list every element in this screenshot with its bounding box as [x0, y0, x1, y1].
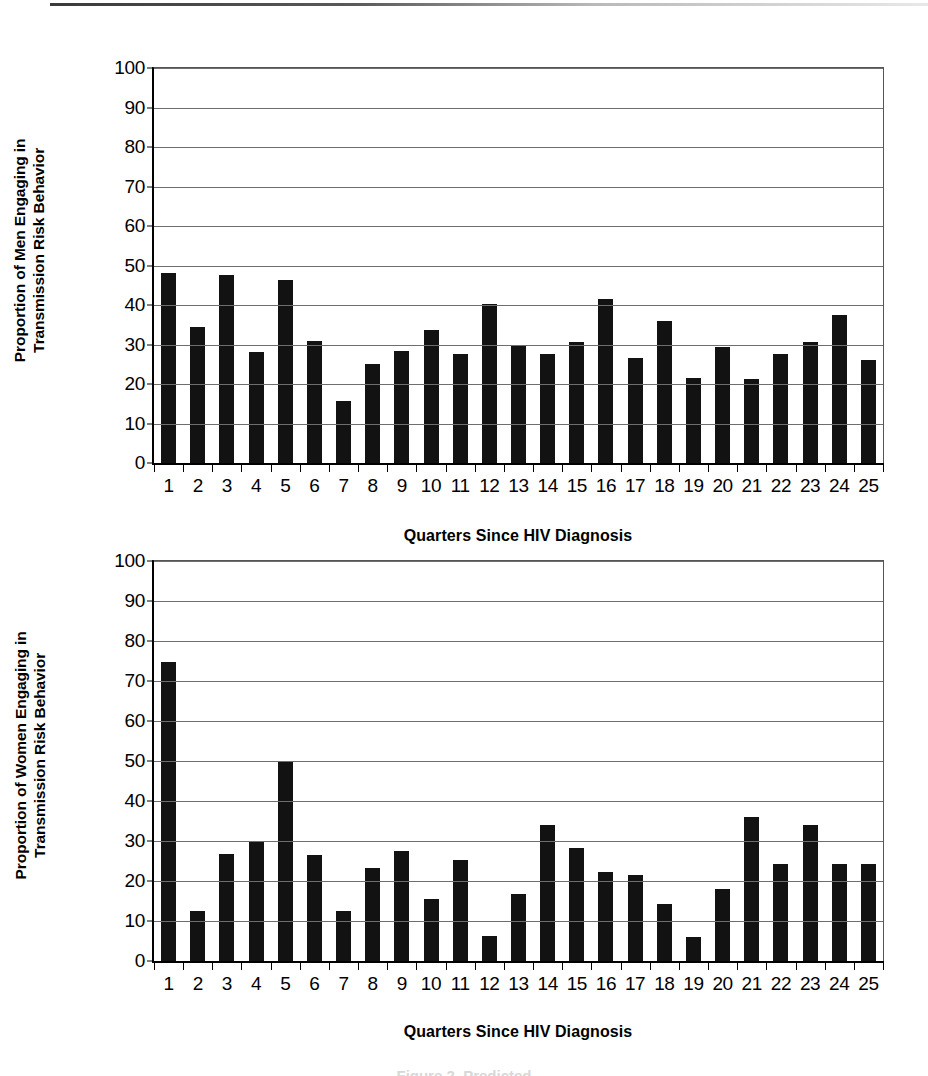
bar	[307, 341, 322, 463]
x-tick-mark	[650, 961, 651, 970]
y-tick-mark-women-70	[147, 681, 154, 682]
bar	[715, 347, 730, 463]
x-tick-label-men-17: 17	[625, 475, 645, 497]
x-tick-label-men-14: 14	[537, 475, 557, 497]
bar	[569, 342, 584, 463]
x-tick-mark	[766, 961, 767, 970]
x-tick-mark	[241, 961, 242, 970]
gridline-women-50	[154, 761, 883, 762]
gridline-men-70	[154, 187, 883, 188]
x-tick-mark	[504, 961, 505, 970]
bar	[307, 855, 322, 961]
x-axis-title-men: Quarters Since HIV Diagnosis	[152, 527, 884, 545]
bar	[686, 937, 701, 961]
x-tick-mark	[825, 961, 826, 970]
bar	[803, 342, 818, 463]
bar	[861, 360, 876, 463]
x-axis-ticks-men	[154, 463, 883, 472]
bar	[365, 364, 380, 463]
x-tick-label-women-4: 4	[251, 973, 261, 995]
x-tick-mark	[212, 463, 213, 472]
x-tick-mark	[708, 961, 709, 970]
y-tick-label-men-40: 40	[124, 294, 145, 316]
bar	[628, 875, 643, 961]
x-tick-label-men-10: 10	[421, 475, 441, 497]
x-tick-mark	[737, 463, 738, 472]
bar	[278, 761, 293, 961]
y-tick-mark-women-40	[147, 801, 154, 802]
x-tick-mark	[446, 961, 447, 970]
y-tick-label-women-90: 90	[124, 590, 145, 612]
y-tick-mark-men-90	[147, 107, 154, 108]
x-tick-mark	[183, 961, 184, 970]
y-tick-label-men-70: 70	[124, 176, 145, 198]
x-tick-label-women-13: 13	[508, 973, 528, 995]
bar	[540, 825, 555, 961]
bar	[278, 280, 293, 463]
x-tick-label-men-9: 9	[397, 475, 407, 497]
figure-container: Proportion of Men Engaging in Transmissi…	[0, 0, 928, 1076]
y-tick-label-men-100: 100	[114, 57, 145, 79]
x-axis-tick-labels-men: 1234567891011121314151617181920212223242…	[154, 475, 883, 501]
y-axis-label-men-line1: Proportion of Men Engaging in	[11, 138, 30, 362]
x-tick-mark	[212, 961, 213, 970]
x-tick-label-women-23: 23	[800, 973, 820, 995]
gridline-men-50	[154, 266, 883, 267]
bar	[190, 327, 205, 463]
x-tick-label-men-19: 19	[683, 475, 703, 497]
y-axis-label-women-line2: Transmission Risk Behavior	[30, 631, 49, 879]
x-tick-label-women-11: 11	[451, 973, 470, 995]
x-tick-mark	[621, 961, 622, 970]
x-tick-label-men-22: 22	[771, 475, 791, 497]
x-tick-label-men-23: 23	[800, 475, 820, 497]
x-tick-mark	[796, 961, 797, 970]
gridline-women-70	[154, 681, 883, 682]
bar	[773, 354, 788, 463]
y-tick-mark-men-50	[147, 265, 154, 266]
y-axis-label-men-line2: Transmission Risk Behavior	[30, 138, 49, 362]
x-tick-mark	[825, 463, 826, 472]
bar	[744, 379, 759, 463]
x-tick-label-men-3: 3	[222, 475, 232, 497]
x-tick-mark	[475, 961, 476, 970]
y-tick-mark-women-100	[147, 561, 154, 562]
bar	[453, 860, 468, 961]
x-tick-label-men-8: 8	[368, 475, 378, 497]
x-tick-mark	[562, 961, 563, 970]
bar	[424, 330, 439, 463]
x-tick-label-women-1: 1	[163, 973, 173, 995]
x-tick-mark	[475, 463, 476, 472]
y-tick-label-women-40: 40	[124, 790, 145, 812]
bar	[540, 354, 555, 463]
gridline-men-90	[154, 108, 883, 109]
y-tick-mark-men-80	[147, 147, 154, 148]
x-tick-label-men-7: 7	[338, 475, 348, 497]
x-tick-mark	[854, 961, 855, 970]
bar	[249, 841, 264, 961]
gridline-women-40	[154, 801, 883, 802]
x-tick-label-women-16: 16	[596, 973, 616, 995]
x-tick-label-women-15: 15	[567, 973, 587, 995]
x-tick-mark	[621, 463, 622, 472]
bar	[161, 273, 176, 463]
y-tick-mark-women-0	[147, 961, 154, 962]
x-tick-label-men-4: 4	[251, 475, 261, 497]
bar	[336, 401, 351, 463]
x-tick-mark	[766, 463, 767, 472]
y-tick-mark-men-0	[147, 463, 154, 464]
gridline-men-60	[154, 226, 883, 227]
y-tick-label-women-100: 100	[114, 550, 145, 572]
gridline-men-40	[154, 305, 883, 306]
y-axis-label-men: Proportion of Men Engaging in Transmissi…	[0, 40, 60, 460]
bar	[219, 854, 234, 961]
gridline-women-30	[154, 841, 883, 842]
x-tick-mark	[416, 961, 417, 970]
y-tick-mark-women-50	[147, 761, 154, 762]
x-tick-mark	[679, 463, 680, 472]
x-tick-label-men-5: 5	[280, 475, 290, 497]
x-axis-title-women: Quarters Since HIV Diagnosis	[152, 1023, 884, 1041]
x-tick-label-men-15: 15	[567, 475, 587, 497]
x-tick-mark	[387, 463, 388, 472]
x-tick-label-women-20: 20	[712, 973, 732, 995]
y-axis-label-women-line1: Proportion of Women Engaging in	[11, 631, 30, 879]
